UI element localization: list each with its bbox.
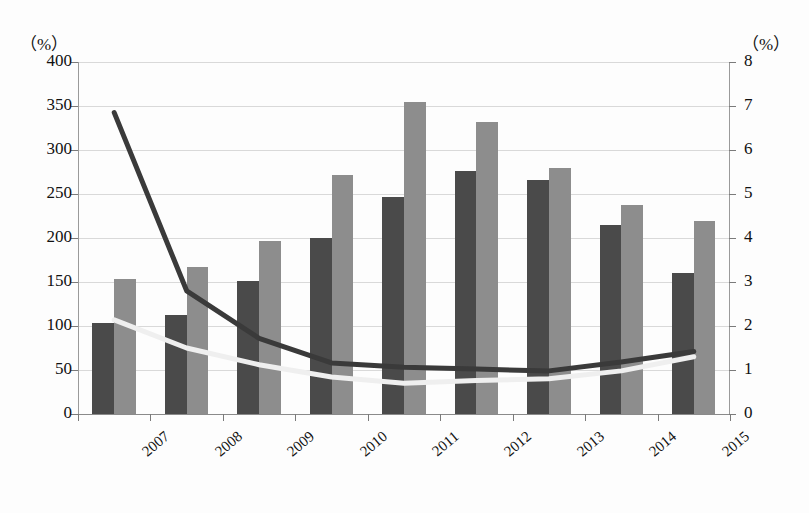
left-axis-tick-label: 0: [0, 403, 72, 423]
line-series-light: [114, 320, 694, 383]
left-axis-tick: [71, 370, 78, 371]
right-axis-tick-label: 1: [744, 359, 784, 379]
right-axis-tick-label: 0: [744, 403, 784, 423]
x-axis-tick: [585, 414, 586, 421]
right-axis-tick-label: 4: [744, 227, 784, 247]
right-axis-tick: [729, 238, 736, 239]
right-axis-tick-label: 3: [744, 271, 784, 291]
right-axis-tick-label: 5: [744, 183, 784, 203]
right-axis-tick-label: 7: [744, 95, 784, 115]
x-axis-tick-label: 2010: [357, 428, 391, 460]
x-axis-tick-label: 2008: [212, 428, 246, 460]
right-axis-tick-label: 8: [744, 51, 784, 71]
right-axis-tick-label: 6: [744, 139, 784, 159]
x-axis-tick-label: 2012: [501, 428, 535, 460]
right-axis-tick: [729, 106, 736, 107]
right-axis-tick: [729, 370, 736, 371]
left-axis-tick-label: 200: [0, 227, 72, 247]
x-axis-tick: [295, 414, 296, 421]
right-axis-tick: [729, 194, 736, 195]
x-axis-tick: [658, 414, 659, 421]
x-axis-tick: [223, 414, 224, 421]
x-axis-tick: [150, 414, 151, 421]
left-axis-line: [78, 62, 79, 415]
right-axis-tick-label: 2: [744, 315, 784, 335]
x-axis-tick-label: 2009: [284, 428, 318, 460]
left-axis-tick: [71, 282, 78, 283]
bottom-axis-line: [78, 414, 730, 415]
right-axis-tick: [729, 150, 736, 151]
x-axis-tick: [513, 414, 514, 421]
left-axis-tick: [71, 194, 78, 195]
x-axis-tick-label: 2015: [719, 428, 753, 460]
left-axis-tick-label: 250: [0, 183, 72, 203]
left-axis-tick-label: 300: [0, 139, 72, 159]
line-series-layer: [78, 62, 730, 414]
right-axis-tick: [729, 326, 736, 327]
left-axis-tick-label: 50: [0, 359, 72, 379]
x-axis-tick: [368, 414, 369, 421]
left-axis-tick: [71, 414, 78, 415]
left-axis-tick: [71, 326, 78, 327]
x-axis-tick-label: 2013: [574, 428, 608, 460]
x-axis-tick-label: 2014: [646, 428, 680, 460]
left-axis-tick-label: 350: [0, 95, 72, 115]
x-axis-tick: [730, 414, 731, 421]
line-series-dark: [114, 113, 694, 371]
x-axis-tick: [78, 414, 79, 421]
left-axis-tick: [71, 106, 78, 107]
left-axis-tick-label: 100: [0, 315, 72, 335]
x-axis-tick-label: 2007: [139, 428, 173, 460]
plot-area: [78, 62, 730, 414]
right-axis-tick: [729, 62, 736, 63]
x-axis-tick: [440, 414, 441, 421]
left-axis-tick: [71, 62, 78, 63]
left-axis-tick: [71, 150, 78, 151]
left-axis-tick-label: 400: [0, 51, 72, 71]
x-axis-tick-label: 2011: [429, 428, 462, 460]
chart-container: （%） （%） 050100150200250300350400 0123456…: [0, 0, 809, 513]
left-axis-tick: [71, 238, 78, 239]
left-axis-tick-label: 150: [0, 271, 72, 291]
right-axis-tick: [729, 282, 736, 283]
